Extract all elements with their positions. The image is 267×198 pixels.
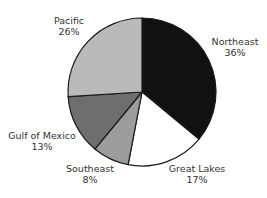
label-pacific-name: Pacific <box>54 15 84 26</box>
label-southeast-pct: 8% <box>66 174 114 185</box>
label-gulf-of-mexico-name: Gulf of Mexico <box>8 130 76 141</box>
label-great-lakes-name: Great Lakes <box>169 163 226 174</box>
pie-chart <box>0 0 267 198</box>
label-southeast: Southeast 8% <box>66 163 114 185</box>
label-great-lakes: Great Lakes 17% <box>169 163 226 185</box>
label-pacific: Pacific 26% <box>54 15 84 37</box>
pie-slices <box>68 18 216 166</box>
label-northeast: Northeast 36% <box>212 36 259 58</box>
label-northeast-pct: 36% <box>212 47 259 58</box>
label-southeast-name: Southeast <box>66 163 114 174</box>
label-gulf-of-mexico-pct: 13% <box>8 141 76 152</box>
label-northeast-name: Northeast <box>212 36 259 47</box>
label-great-lakes-pct: 17% <box>169 174 226 185</box>
label-pacific-pct: 26% <box>54 26 84 37</box>
label-gulf-of-mexico: Gulf of Mexico 13% <box>8 130 76 152</box>
